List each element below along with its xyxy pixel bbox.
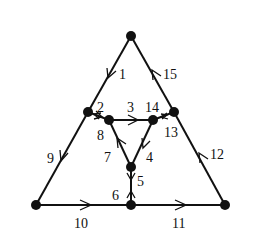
label-6: 6 <box>112 188 119 203</box>
label-5: 5 <box>137 174 144 189</box>
node-top <box>126 31 136 41</box>
label-14: 14 <box>145 100 159 115</box>
label-10: 10 <box>74 216 88 231</box>
arrowheads <box>60 68 208 210</box>
directed-graph-diagram: 1 15 2 3 14 8 13 7 4 9 12 5 6 10 11 <box>0 0 260 238</box>
label-2: 2 <box>97 100 104 115</box>
node-inner-right <box>148 115 158 125</box>
edge-9 <box>36 112 88 205</box>
label-3: 3 <box>127 100 134 115</box>
label-1: 1 <box>119 67 126 82</box>
label-7: 7 <box>104 150 111 165</box>
node-bottom-right <box>220 200 230 210</box>
label-12: 12 <box>210 147 224 162</box>
edge-7 <box>109 120 131 167</box>
node-inner-left <box>104 115 114 125</box>
label-11: 11 <box>172 216 185 231</box>
label-15: 15 <box>163 67 177 82</box>
label-13: 13 <box>164 125 178 140</box>
label-9: 9 <box>47 151 54 166</box>
node-bottom-center <box>126 200 136 210</box>
label-8: 8 <box>97 128 104 143</box>
node-inner-bottom <box>126 162 136 172</box>
node-bottom-left <box>31 200 41 210</box>
node-left-mid <box>83 107 93 117</box>
label-4: 4 <box>146 150 153 165</box>
node-right-mid <box>169 107 179 117</box>
